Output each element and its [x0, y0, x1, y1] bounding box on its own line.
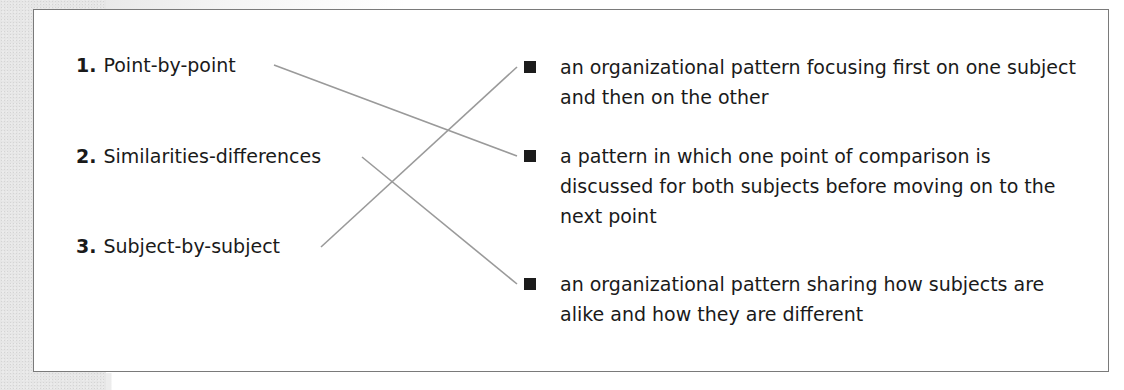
term-item-3: 3.Subject-by-subject [76, 235, 280, 257]
term-label: Subject-by-subject [103, 235, 280, 257]
page-background-top [106, 0, 1124, 9]
term-label: Point-by-point [103, 54, 235, 76]
page-background-bottom [106, 373, 1124, 390]
term-item-2: 2.Similarities-differences [76, 145, 321, 167]
black-square-icon [524, 278, 536, 290]
term-number: 1. [76, 54, 96, 76]
term-item-1: 1.Point-by-point [76, 54, 236, 76]
definition-text: an organizational pattern focusing first… [560, 52, 1080, 112]
black-square-icon [524, 150, 536, 162]
definition-text: an organizational pattern sharing how su… [560, 269, 1080, 329]
black-square-icon [524, 61, 536, 73]
term-number: 2. [76, 145, 96, 167]
term-label: Similarities-differences [103, 145, 321, 167]
definition-text: a pattern in which one point of comparis… [560, 141, 1080, 231]
term-number: 3. [76, 235, 96, 257]
